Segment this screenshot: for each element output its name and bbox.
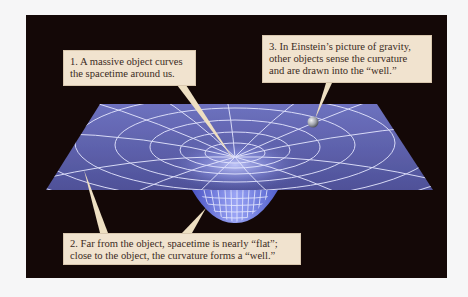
- spacetime-sheet: [26, 65, 447, 215]
- pointer-callout-2-well: [182, 208, 206, 233]
- orbiting-ball: [308, 117, 319, 128]
- callout-1: 1. A massive object curves the spacetime…: [63, 50, 196, 86]
- callout-2-line-1: 2. Far from the object, spacetime is nea…: [70, 238, 294, 250]
- callout-3-line-1: 3. In Einstein’s picture of gravity,: [269, 41, 425, 53]
- callout-1-line-2: the spacetime around us.: [70, 68, 189, 80]
- callout-3: 3. In Einstein’s picture of gravity, oth…: [262, 35, 432, 83]
- gravity-well: [192, 190, 278, 223]
- callout-3-line-2: other objects sense the curvature: [269, 53, 425, 65]
- callout-3-line-3: and are drawn into the “well.”: [269, 65, 425, 77]
- callout-1-line-1: 1. A massive object curves: [70, 56, 189, 68]
- callout-2-line-2: close to the object, the curvature forms…: [70, 250, 294, 262]
- spacetime-figure-panel: 1. A massive object curves the spacetime…: [26, 15, 447, 278]
- callout-2: 2. Far from the object, spacetime is nea…: [63, 233, 301, 265]
